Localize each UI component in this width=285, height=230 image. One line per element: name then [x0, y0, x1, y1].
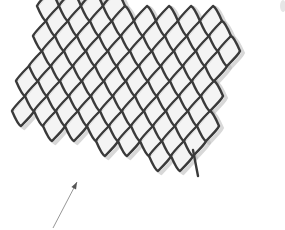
mesh-photo [0, 0, 285, 230]
